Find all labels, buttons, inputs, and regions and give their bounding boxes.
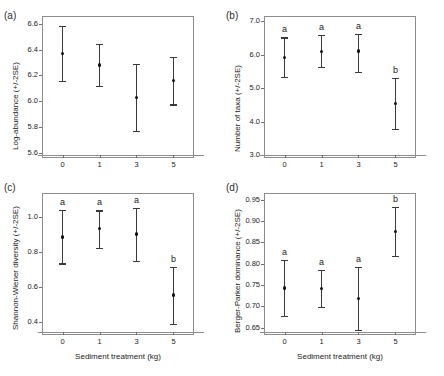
- x-axis-title-3: Sediment treatment (kg): [42, 352, 194, 361]
- y-tick-label: 0.85: [234, 237, 260, 246]
- error-bar-cap-bottom: [392, 129, 399, 130]
- y-tick-mark: [39, 50, 42, 51]
- y-tick-mark: [261, 328, 264, 329]
- data-point-marker: [98, 63, 101, 66]
- data-point-marker: [357, 49, 360, 52]
- y-tick-mark: [39, 75, 42, 76]
- x-tick-label: 5: [163, 160, 183, 169]
- error-bar-cap-top: [133, 208, 140, 209]
- error-bar-cap-bottom: [59, 81, 66, 82]
- y-tick-mark: [39, 322, 42, 323]
- y-tick-label: 6.4: [12, 45, 38, 54]
- error-bar-cap-top: [170, 267, 177, 268]
- y-tick-label: 0.80: [234, 259, 260, 268]
- y-tick-label: 0.90: [234, 216, 260, 225]
- x-tick-mark: [358, 332, 359, 335]
- error-bar-cap-bottom: [281, 77, 288, 78]
- x-tick-mark: [100, 155, 101, 158]
- significance-letter: b: [387, 65, 403, 75]
- x-tick-label: 1: [90, 337, 110, 346]
- error-bar-cap-bottom: [96, 248, 103, 249]
- data-point-marker: [283, 286, 286, 289]
- significance-letter: a: [55, 197, 71, 207]
- x-tick-label: 5: [385, 160, 405, 169]
- data-point-marker: [172, 293, 175, 296]
- error-bar-cap-top: [318, 35, 325, 36]
- error-bar-cap-top: [170, 57, 177, 58]
- x-tick-mark: [358, 155, 359, 158]
- error-bar-cap-bottom: [170, 104, 177, 105]
- y-tick-mark: [261, 221, 264, 222]
- x-tick-label: 1: [90, 160, 110, 169]
- y-tick-mark: [261, 122, 264, 123]
- y-tick-label: 0.75: [234, 280, 260, 289]
- error-bar-cap-bottom: [318, 307, 325, 308]
- x-tick-mark: [136, 332, 137, 335]
- x-tick-label: 5: [385, 337, 405, 346]
- x-tick-mark: [63, 332, 64, 335]
- y-tick-mark: [261, 306, 264, 307]
- x-tick-label: 0: [53, 337, 73, 346]
- error-bar-cap-top: [59, 26, 66, 27]
- error-bar-cap-bottom: [170, 324, 177, 325]
- y-tick-label: 6.0: [12, 96, 38, 105]
- error-bar-cap-bottom: [392, 256, 399, 257]
- significance-letter: a: [314, 257, 330, 267]
- error-bar-cap-bottom: [96, 86, 103, 87]
- error-bar-cap-top: [96, 44, 103, 45]
- y-tick-mark: [261, 21, 264, 22]
- data-point-marker: [135, 232, 138, 235]
- y-axis-label-4: Berger-Parker dominance (+/-2SE): [233, 209, 242, 333]
- x-tick-mark: [322, 155, 323, 158]
- plot-area-4: [264, 193, 416, 335]
- y-tick-mark: [39, 287, 42, 288]
- significance-letter: b: [165, 254, 181, 264]
- x-tick-label: 3: [126, 337, 146, 346]
- y-tick-label: 0.4: [12, 317, 38, 326]
- x-tick-label: 5: [163, 337, 183, 346]
- y-tick-label: 0.6: [12, 282, 38, 291]
- error-bar-cap-top: [281, 37, 288, 38]
- significance-letter: a: [128, 195, 144, 205]
- y-tick-label: 5.6: [12, 148, 38, 157]
- significance-letter: a: [350, 254, 366, 264]
- x-tick-label: 1: [312, 160, 332, 169]
- y-tick-mark: [261, 55, 264, 56]
- x-tick-label: 3: [348, 160, 368, 169]
- y-tick-label: 5.0: [234, 83, 260, 92]
- error-bar-cap-top: [59, 210, 66, 211]
- significance-letter: a: [314, 22, 330, 32]
- x-tick-label: 3: [348, 337, 368, 346]
- plot-area-1: [42, 16, 194, 158]
- y-tick-mark: [39, 217, 42, 218]
- x-tick-mark: [395, 332, 396, 335]
- error-bar-cap-bottom: [318, 67, 325, 68]
- y-tick-label: 3.0: [234, 150, 260, 159]
- panel-letter-3: (c): [4, 182, 16, 193]
- y-tick-label: 1.0: [12, 212, 38, 221]
- y-tick-label: 0.65: [234, 323, 260, 332]
- error-bar-cap-bottom: [355, 330, 362, 331]
- x-tick-label: 3: [126, 160, 146, 169]
- y-tick-mark: [261, 285, 264, 286]
- y-axis-label-2: Number of taxa (+/-2SE): [233, 65, 242, 152]
- error-bar-cap-top: [281, 260, 288, 261]
- y-tick-mark: [39, 101, 42, 102]
- y-tick-mark: [39, 127, 42, 128]
- y-tick-mark: [39, 153, 42, 154]
- y-tick-mark: [261, 242, 264, 243]
- error-bar-cap-bottom: [355, 72, 362, 73]
- significance-letter: a: [277, 24, 293, 34]
- x-axis-title-4: Sediment treatment (kg): [264, 352, 416, 361]
- y-tick-label: 5.8: [12, 122, 38, 131]
- error-bar-cap-bottom: [59, 263, 66, 264]
- significance-letter: a: [350, 21, 366, 31]
- x-tick-mark: [63, 155, 64, 158]
- x-tick-mark: [285, 332, 286, 335]
- error-bar-cap-bottom: [133, 261, 140, 262]
- x-tick-label: 1: [312, 337, 332, 346]
- x-tick-mark: [100, 332, 101, 335]
- x-tick-mark: [173, 332, 174, 335]
- x-tick-mark: [285, 155, 286, 158]
- y-axis-label-3: Shannon-Wiener diversity (+/-2SE): [11, 206, 20, 330]
